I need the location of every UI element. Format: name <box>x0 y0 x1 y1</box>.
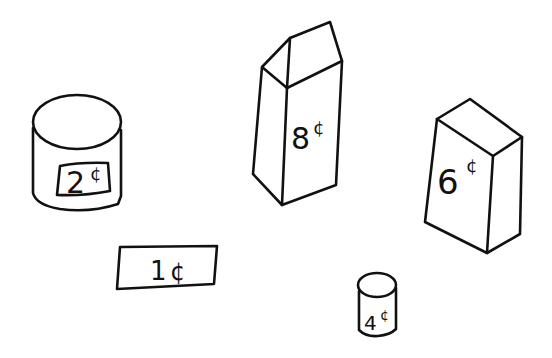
cent-sign: ¢ <box>90 163 101 184</box>
cent-sign: ¢ <box>466 155 477 176</box>
small-cylinder-4-cents: 4 ¢ <box>358 273 396 336</box>
cent-sign: ¢ <box>313 117 324 138</box>
cent-sign: ¢ <box>170 258 185 286</box>
cent-sign: ¢ <box>380 307 389 323</box>
price-number: 1 <box>150 256 167 286</box>
price-number: 6 <box>437 162 459 202</box>
price-number: 8 <box>291 121 310 156</box>
box-6-cents: 6 ¢ <box>425 99 522 253</box>
price-number: 4 <box>364 311 377 335</box>
tall-prism-8-cents: 8 ¢ <box>253 22 342 205</box>
price-number: 2 <box>66 165 85 200</box>
rectangle-1-cent: 1 ¢ <box>117 246 217 289</box>
large-cylinder-2-cents: 2 ¢ <box>33 95 121 210</box>
drawing-canvas: 2 ¢ 8 ¢ 6 ¢ 1 ¢ 4 ¢ <box>0 0 552 358</box>
